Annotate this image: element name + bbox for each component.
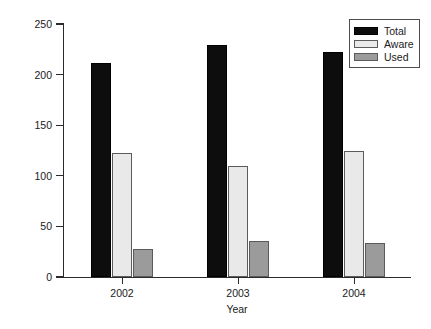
x-axis-tick-label: 2004 xyxy=(324,287,384,299)
y-axis-tick-label: 100 xyxy=(22,170,52,182)
y-axis-tick-mark xyxy=(56,226,63,227)
bar-total-2003 xyxy=(207,45,227,277)
legend-swatch-icon xyxy=(354,53,378,61)
y-axis-tick-labels: 050100150200250 xyxy=(18,0,52,329)
y-axis-title: No of patients xyxy=(0,0,18,329)
bar-total-2004 xyxy=(323,52,343,277)
legend-item-label: Aware xyxy=(384,38,414,50)
bar-used-2003 xyxy=(249,241,269,277)
bar-chart-figure: No of patients 050100150200250 Year Tota… xyxy=(0,0,431,329)
bar-aware-2004 xyxy=(344,151,364,278)
legend-item-aware: Aware xyxy=(354,37,414,50)
legend-item-total: Total xyxy=(354,24,414,37)
bar-aware-2003 xyxy=(228,166,248,277)
y-axis-tick-mark xyxy=(56,175,63,176)
y-axis-tick-mark xyxy=(56,74,63,75)
y-axis-tick-label: 150 xyxy=(22,119,52,131)
legend-item-label: Total xyxy=(384,25,406,37)
x-axis-tick-label: 2002 xyxy=(92,287,152,299)
bar-used-2002 xyxy=(133,249,153,277)
bar-aware-2002 xyxy=(112,153,132,277)
y-axis-tick-mark xyxy=(56,276,63,277)
legend-item-used: Used xyxy=(354,50,414,63)
y-axis-tick-label: 250 xyxy=(22,18,52,30)
bar-total-2002 xyxy=(91,63,111,277)
x-axis-line xyxy=(62,277,411,278)
x-axis-title: Year xyxy=(63,303,411,315)
y-axis-tick-label: 0 xyxy=(22,271,52,283)
legend-item-label: Used xyxy=(384,51,409,63)
chart-legend: TotalAwareUsed xyxy=(349,19,420,68)
y-axis-tick-label: 200 xyxy=(22,69,52,81)
x-axis-tick-mark xyxy=(122,278,123,284)
bar-used-2004 xyxy=(365,243,385,277)
y-axis-tick-mark xyxy=(56,23,63,24)
legend-swatch-icon xyxy=(354,40,378,48)
x-axis-tick-mark xyxy=(354,278,355,284)
x-axis-tick-mark xyxy=(238,278,239,284)
x-axis-tick-label: 2003 xyxy=(208,287,268,299)
y-axis-tick-mark xyxy=(56,125,63,126)
y-axis-tick-label: 50 xyxy=(22,220,52,232)
legend-swatch-icon xyxy=(354,27,378,35)
